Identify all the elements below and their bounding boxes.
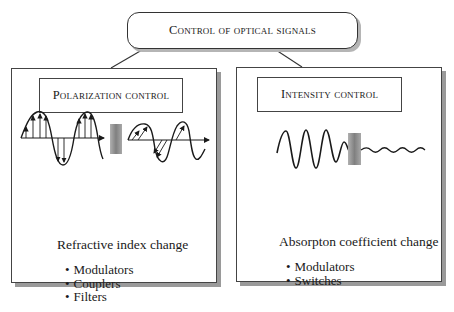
panel-polarization-control: Polarization control (11, 68, 217, 283)
polarizer-block (110, 124, 122, 154)
absorber-block (348, 133, 361, 165)
application-list: Modulators Switches (286, 260, 355, 287)
list-item: Couplers (65, 277, 134, 291)
list-item: Switches (286, 274, 355, 288)
root-title: Control of optical signals (169, 23, 316, 38)
list-item: Filters (65, 290, 134, 304)
list-item: Modulators (65, 263, 134, 277)
list-item: Modulators (286, 260, 355, 274)
root-node: Control of optical signals (127, 12, 358, 49)
intensity-wave-figure (237, 68, 441, 188)
panel-intensity-control: Intensity control Absorpton coefficient … (236, 67, 442, 282)
mechanism-text: Refractive index change (57, 237, 188, 253)
mechanism-text: Absorpton coefficient change (279, 234, 438, 250)
application-list: Modulators Couplers Filters (65, 263, 134, 304)
polarization-wave-figure (12, 69, 216, 189)
